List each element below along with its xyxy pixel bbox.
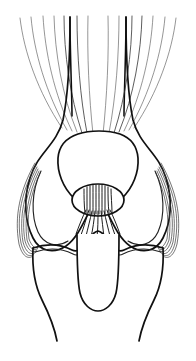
figure-canvas [0,0,196,361]
tibial-tuberosity-outline [77,234,119,311]
caption-strip [0,348,196,361]
knee-anatomy-illustration [0,0,196,361]
